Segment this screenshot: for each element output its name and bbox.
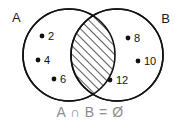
- element-dot: [40, 34, 45, 39]
- element-label-a-0: 2: [48, 30, 54, 42]
- element-label-b-2: 12: [116, 74, 128, 86]
- element-dot: [136, 59, 141, 64]
- element-dot: [126, 36, 131, 41]
- element-dot: [108, 78, 113, 83]
- caption-expression: A ∩ B = Ø: [56, 104, 123, 120]
- element-label-b-1: 10: [144, 55, 156, 67]
- set-b-label: B: [161, 11, 170, 26]
- element-label-a-2: 6: [60, 73, 66, 85]
- set-a-label: A: [12, 10, 21, 25]
- venn-diagram-canvas: A B 2 4 6 8 10 12 A ∩ B = Ø: [0, 0, 181, 122]
- element-dot: [52, 77, 57, 82]
- element-label-a-1: 4: [44, 54, 50, 66]
- element-dot: [36, 58, 41, 63]
- venn-diagram-figure: A B 2 4 6 8 10 12 A ∩ B = Ø: [0, 0, 181, 122]
- element-label-b-0: 8: [134, 32, 140, 44]
